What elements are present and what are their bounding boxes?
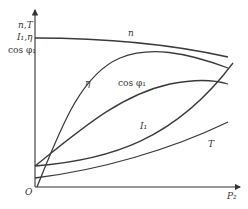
curve-label-n: n [128, 29, 134, 38]
origin-label: O [25, 188, 32, 197]
y-axis-label-cos-phi1: cos φ₁ [8, 46, 36, 55]
y-axis-label-n-t: n,T [18, 21, 33, 30]
curve-t [35, 122, 228, 178]
curve-label-cos-phi1: cos φ₁ [118, 79, 146, 88]
x-axis-label-p2: P₂ [227, 192, 237, 201]
y-axis-label-i1-eta: I₁,η [17, 33, 32, 42]
curve-label-t: T [208, 140, 214, 149]
performance-characteristics-chart [0, 0, 248, 209]
curve-label-i1: I₁ [140, 122, 147, 131]
curve-eta [37, 52, 228, 187]
curve-label-eta: η [85, 79, 90, 88]
